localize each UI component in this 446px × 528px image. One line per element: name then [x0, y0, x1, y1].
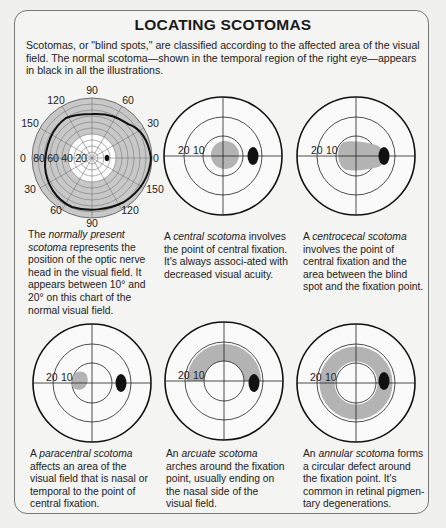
angle-label-150: 150	[21, 117, 39, 129]
angle-label-0-left: 0	[20, 152, 26, 164]
caption-normal: The normally present scotoma represents …	[28, 229, 153, 317]
ring-label-20: 20	[178, 144, 190, 156]
caption-annular: An annular scotoma forms a circular defe…	[303, 448, 425, 511]
ring-label-10: 10	[326, 144, 338, 156]
ring-label-10: 10	[61, 371, 73, 383]
angle-label-60-lower: 60	[50, 204, 62, 216]
angle-label-30: 30	[147, 117, 159, 129]
perimeter-chart: 90 120 60 150 30 0 0 30 150 60 120 90 80…	[20, 84, 164, 229]
ring-label-20: 20	[178, 369, 190, 381]
paracentral-scotoma-diagram: 20 10	[33, 324, 151, 442]
angle-label-150-lower: 150	[146, 183, 164, 195]
central-scotoma-diagram: 20 10	[164, 97, 282, 215]
ring-label-10: 10	[193, 144, 205, 156]
radial-label-20: 20	[75, 152, 87, 164]
radial-label-40: 40	[61, 152, 73, 164]
angle-label-60: 60	[122, 94, 134, 106]
radial-label-80: 80	[33, 152, 45, 164]
angle-label-120-lower: 120	[121, 204, 139, 216]
caption-paracentral: A paracentral scotoma affects an area of…	[30, 448, 155, 511]
radial-label-60: 60	[47, 152, 59, 164]
angle-label-30-lower: 30	[24, 183, 36, 195]
angle-label-0-right: 0	[153, 152, 159, 164]
caption-centrocecal: A centrocecal scotoma involves the point…	[303, 231, 426, 294]
arcuate-scotoma-diagram: 20 10	[165, 322, 283, 440]
ring-label-10: 10	[193, 369, 205, 381]
angle-label-90-top: 90	[86, 84, 98, 96]
ring-label-20: 20	[46, 371, 58, 383]
angle-label-90-bottom: 90	[86, 217, 98, 229]
ring-label-20: 20	[310, 371, 322, 383]
centrocecal-scotoma-diagram: 20 10	[297, 97, 415, 215]
caption-central: A central scotoma involves the point of …	[164, 231, 289, 281]
ring-label-10: 10	[325, 371, 337, 383]
caption-arcuate: An arcuate scotoma arches around the fix…	[166, 448, 286, 511]
ring-label-20: 20	[311, 144, 323, 156]
annular-scotoma-diagram: 20 10	[297, 324, 415, 442]
angle-label-120: 120	[47, 94, 65, 106]
